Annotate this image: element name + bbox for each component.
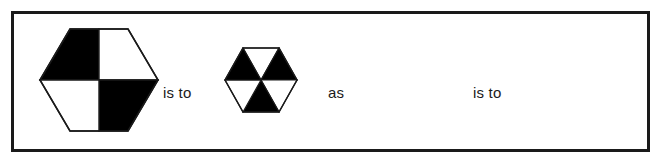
figure-hexagon-six-sectors [220, 44, 302, 116]
segment-top-right [99, 29, 158, 80]
hexagon-six-sectors-svg [220, 44, 302, 116]
connector-is-to-2: is to [473, 84, 502, 101]
connector-is-to-1: is to [163, 84, 192, 101]
connector-as: as [328, 84, 344, 101]
segment-bottom-left [40, 80, 99, 131]
figure-hexagon-quartered [35, 24, 163, 136]
hexagon-quartered-svg [35, 24, 163, 136]
puzzle-frame: is to as is to [11, 11, 650, 152]
figure-prompt-blank [384, 42, 464, 132]
segment-bottom-right [99, 80, 158, 131]
figure-answer-blank [534, 42, 639, 132]
segment-top-left [40, 29, 99, 80]
